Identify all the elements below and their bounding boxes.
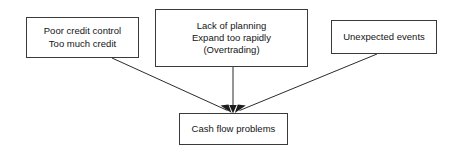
node-cash-flow-problems: Cash flow problems [179, 113, 288, 145]
node-unexpected-events: Unexpected events [331, 20, 437, 54]
node-poor-credit-line-1: Poor credit control [44, 25, 121, 37]
node-lack-of-planning: Lack of planning Expand too rapidly (Ove… [155, 9, 308, 67]
node-poor-credit-control: Poor credit control Too much credit [26, 17, 139, 58]
node-poor-credit-line-2: Too much credit [49, 38, 116, 50]
node-lack-planning-line-2: Expand too rapidly [192, 32, 271, 44]
node-unexpected-events-line-1: Unexpected events [343, 31, 425, 43]
flowchart-diagram: Poor credit control Too much credit Lack… [0, 0, 459, 157]
node-cash-flow-line-1: Cash flow problems [192, 123, 276, 135]
node-lack-planning-line-3: (Overtrading) [203, 44, 259, 56]
node-lack-planning-line-1: Lack of planning [197, 20, 267, 32]
